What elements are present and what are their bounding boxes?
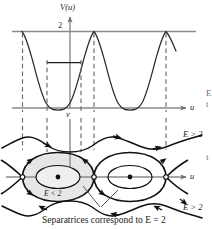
orbit-outer-upper — [2, 135, 202, 152]
phase-yaxis-label: v — [66, 110, 70, 119]
center-point-first — [56, 175, 61, 180]
potential-yaxis-label: V(u) — [60, 3, 75, 12]
margin-ghost-text-3: t — [206, 152, 209, 162]
margin-ghost-text-2: t — [206, 99, 209, 109]
margin-ghost-text-1: E — [206, 88, 212, 98]
saddle-point-left — [20, 175, 25, 180]
figure-container: V(u) 2 u v u E < 2 E > 2 E > 2 Separatri… — [0, 0, 212, 229]
saddle-point-right — [164, 175, 169, 180]
center-point-second — [128, 175, 133, 180]
phase-xaxis-label: u — [190, 172, 194, 181]
separatrix-stub-left-lower — [1, 177, 23, 194]
outer-energy-label-bottom: E > 2 — [183, 203, 202, 212]
saddle-point-middle — [92, 175, 97, 180]
potential-xaxis-label: u — [190, 103, 194, 112]
inner-region-energy-label: E < 2 — [44, 190, 61, 198]
outer-energy-label-top: E > 2 — [183, 130, 202, 139]
separatrix-stub-right-lower — [166, 177, 188, 194]
separatrix-stub-left-upper — [1, 160, 23, 177]
potential-panel — [12, 17, 196, 112]
potential-curve — [22, 32, 176, 111]
separatrix-stub-right-upper — [166, 160, 188, 177]
potential-ytick-label-2: 2 — [58, 21, 62, 30]
figure-graphic — [0, 0, 212, 229]
figure-caption: Separatrices correspond to E = 2 — [42, 216, 166, 226]
phase-portrait-panel — [1, 118, 202, 218]
